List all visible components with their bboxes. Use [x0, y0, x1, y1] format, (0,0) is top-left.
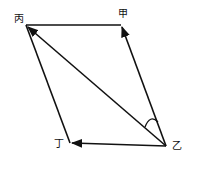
label-jia: 甲: [118, 9, 128, 19]
vector-yi-ding: [72, 143, 166, 146]
vector-yi-jia: [122, 27, 166, 146]
angle-arc-icon: [145, 119, 158, 127]
label-yi: 乙: [172, 141, 182, 151]
vector-diagram: [0, 0, 197, 169]
label-bing: 丙: [14, 14, 24, 24]
edge-bing-ding: [26, 25, 70, 143]
label-ding: 丁: [54, 139, 64, 149]
